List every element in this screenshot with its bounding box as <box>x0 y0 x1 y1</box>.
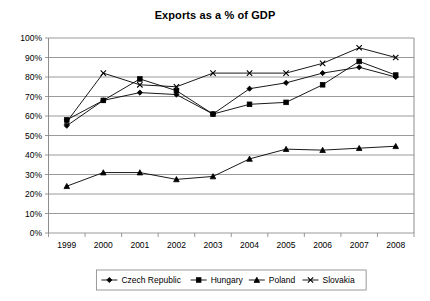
x-axis-label: 2002 <box>167 240 186 250</box>
x-axis-label: 2007 <box>350 240 369 250</box>
y-axis-label: 90% <box>25 53 42 63</box>
series-slovakia <box>64 45 398 125</box>
data-point-marker <box>101 98 106 103</box>
data-point-marker <box>284 100 289 105</box>
y-axis-label: 40% <box>25 150 42 160</box>
x-axis-ticks: 1999200020012002200320042005200620072008 <box>49 233 415 250</box>
x-axis-label: 2008 <box>386 240 405 250</box>
data-point-marker <box>138 77 143 82</box>
data-point-marker <box>101 70 106 75</box>
data-point-marker <box>357 65 362 70</box>
y-axis-label: 20% <box>25 189 42 199</box>
data-point-marker <box>356 45 361 50</box>
legend-label: Slovakia <box>323 275 355 285</box>
series-line <box>67 48 396 122</box>
x-axis-label: 2003 <box>204 240 223 250</box>
y-axis-ticks: 0%10%20%30%40%50%60%70%80%90%100% <box>20 33 48 238</box>
data-point-marker <box>283 80 288 85</box>
x-axis-label: 2005 <box>277 240 296 250</box>
series-hungary <box>64 59 398 122</box>
data-point-marker <box>357 59 362 64</box>
series-poland <box>64 143 399 188</box>
y-axis-label: 30% <box>25 170 42 180</box>
y-axis-label: 60% <box>25 111 42 121</box>
data-point-marker <box>320 83 325 88</box>
data-point-marker <box>137 90 142 95</box>
x-axis-label: 1999 <box>57 240 76 250</box>
chart-container: Exports as a % of GDP 0%10%20%30%40%50%6… <box>0 0 430 301</box>
x-axis-label: 2006 <box>313 240 332 250</box>
data-point-marker <box>247 102 252 107</box>
data-point-marker <box>196 278 201 283</box>
data-series <box>64 45 399 189</box>
chart-legend: Czech RepublicHungaryPolandSlovakia <box>96 270 366 290</box>
y-axis-label: 100% <box>20 33 42 43</box>
x-axis-label: 2000 <box>94 240 113 250</box>
x-axis-label: 2004 <box>240 240 259 250</box>
y-axis-label: 70% <box>25 92 42 102</box>
legend-label: Hungary <box>211 275 244 285</box>
y-axis-label: 10% <box>25 209 42 219</box>
chart-plot: 0%10%20%30%40%50%60%70%80%90%100% 199920… <box>0 0 430 301</box>
data-point-marker <box>320 71 325 76</box>
y-axis-label: 50% <box>25 131 42 141</box>
legend-label: Poland <box>269 275 296 285</box>
legend-label: Czech Republic <box>121 275 181 285</box>
series-line <box>67 61 396 120</box>
series-line <box>67 146 396 186</box>
data-point-marker <box>211 112 216 117</box>
y-axis-label: 80% <box>25 72 42 82</box>
x-axis-label: 2001 <box>130 240 149 250</box>
data-point-marker <box>393 73 398 78</box>
data-point-marker <box>247 86 252 91</box>
data-point-marker <box>64 183 70 188</box>
data-point-marker <box>320 61 325 66</box>
y-axis-label: 0% <box>30 228 43 238</box>
